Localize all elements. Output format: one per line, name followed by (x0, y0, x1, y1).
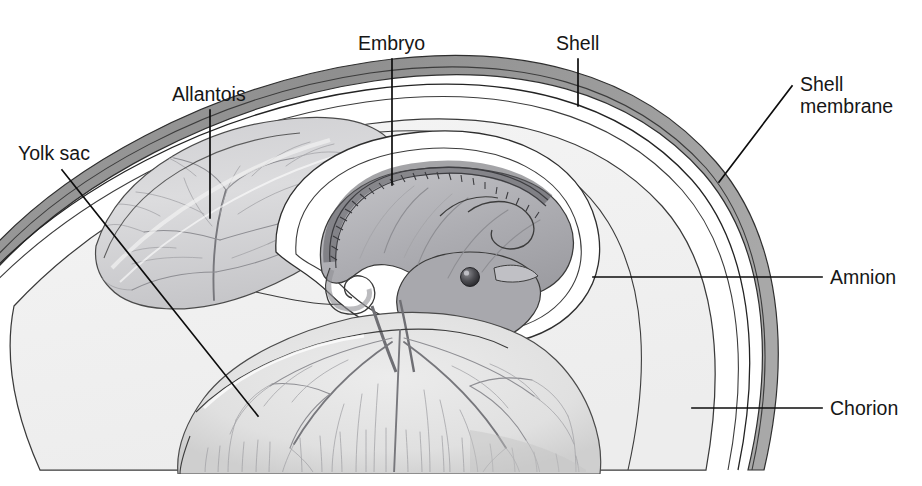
label-shell-membrane-line1: Shell (800, 73, 843, 95)
leader-shell-membrane (719, 86, 792, 182)
label-shell-membrane-line2: membrane (800, 95, 893, 117)
diagram-canvas: Yolk sac Allantois Embryo Shell Shell me… (0, 0, 922, 486)
label-allantois: Allantois (172, 83, 246, 105)
label-yolk-sac: Yolk sac (18, 142, 90, 164)
label-chorion: Chorion (830, 397, 898, 419)
label-shell: Shell (556, 32, 599, 54)
amniotic-egg-diagram: Yolk sac Allantois Embryo Shell Shell me… (0, 0, 922, 486)
embryo-eye (461, 268, 480, 287)
label-amnion: Amnion (830, 266, 896, 288)
label-embryo: Embryo (358, 32, 425, 54)
embryo-eye-highlight (464, 270, 469, 275)
bottom-crop-strip (0, 474, 922, 486)
